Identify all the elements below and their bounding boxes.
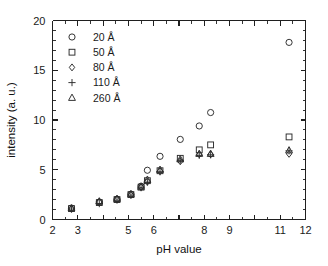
legend-label: 260 Å (93, 92, 120, 104)
marker-diamond-legend (69, 64, 74, 71)
y-tick-label: 20 (33, 15, 45, 27)
x-tick-label: 2 (49, 224, 55, 236)
marker-circle-point (208, 109, 214, 115)
y-tick-label: 10 (33, 114, 45, 126)
axis-frame-left-bottom (53, 21, 306, 220)
legend-label: 80 Å (93, 61, 115, 73)
x-tick-label: 12 (299, 224, 311, 236)
marker-square-point (208, 142, 214, 148)
marker-square-point (286, 134, 292, 140)
legend: 20 Å50 Å80 Å110 Å260 Å (68, 31, 120, 104)
series-5 (68, 147, 292, 211)
y-tick-label: 15 (33, 64, 45, 76)
y-tick-label: 0 (39, 214, 45, 226)
x-tick-label: 11 (274, 224, 285, 236)
x-tick-label: 9 (227, 224, 233, 236)
x-tick-label: 8 (201, 224, 207, 236)
marker-circle-point (286, 39, 292, 45)
marker-triangle-legend (69, 94, 76, 100)
legend-label: 20 Å (93, 31, 115, 43)
marker-circle-point (196, 123, 202, 129)
x-tick-label: 6 (151, 224, 157, 236)
marker-plus-legend (68, 79, 75, 86)
x-axis-title: pH value (156, 243, 201, 255)
marker-circle-point (157, 153, 163, 159)
x-tick-label: 5 (125, 224, 131, 236)
x-tick-label: 3 (75, 224, 81, 236)
y-axis-title: intensity (a. u.) (5, 82, 17, 158)
marker-circle-point (144, 167, 150, 173)
scatter-plot: 235689111205101520pH valueintensity (a. … (0, 0, 328, 266)
chart-figure: 235689111205101520pH valueintensity (a. … (0, 0, 328, 266)
axis-frame-top-right (53, 21, 306, 220)
legend-label: 110 Å (93, 76, 120, 88)
marker-circle-point (177, 136, 183, 142)
y-tick-label: 5 (39, 164, 45, 176)
marker-square-legend (69, 49, 75, 55)
series-2 (69, 134, 292, 211)
legend-label: 50 Å (93, 46, 115, 58)
marker-circle-legend (69, 34, 75, 40)
